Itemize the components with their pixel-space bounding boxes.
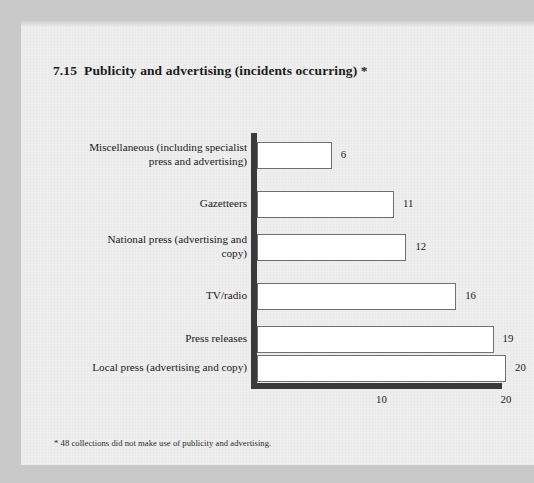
category-label-line: Local press (advertising and copy): [51, 361, 247, 375]
bar-chart: Miscellaneous (including specialistpress…: [51, 133, 529, 401]
bar-value-label: 20: [515, 361, 526, 373]
x-tick-label: 20: [501, 393, 512, 405]
category-label-line: Miscellaneous (including specialist: [51, 141, 247, 155]
category-label: TV/radio: [51, 289, 247, 303]
bar-row: 11: [257, 191, 454, 218]
bar-value-label: 19: [503, 332, 514, 344]
bar: [257, 283, 456, 310]
x-axis-line: [251, 383, 502, 389]
category-label-line: press and advertising): [51, 155, 247, 169]
bar-row: 16: [257, 283, 516, 310]
bar-value-label: 6: [341, 148, 346, 160]
bar: [257, 142, 332, 169]
bar: [257, 191, 394, 218]
figure-title-text: Publicity and advertising (incidents occ…: [84, 63, 368, 78]
figure-title: 7.15Publicity and advertising (incidents…: [53, 63, 368, 79]
category-label-line: National press (advertising and: [51, 233, 247, 247]
bar-row: 12: [257, 234, 466, 261]
figure-number: 7.15: [53, 63, 77, 78]
category-axis-labels: Miscellaneous (including specialistpress…: [51, 133, 247, 385]
x-axis-tick-labels: 1020: [251, 393, 534, 411]
category-label-line: copy): [51, 247, 247, 261]
category-label: Miscellaneous (including specialistpress…: [51, 141, 247, 168]
category-label-line: TV/radio: [51, 289, 247, 303]
bar-value-label: 11: [403, 197, 413, 209]
x-tick-label: 10: [376, 393, 387, 405]
bar-row: 19: [257, 326, 534, 353]
category-label: Gazetteers: [51, 197, 247, 211]
category-label-line: Gazetteers: [51, 197, 247, 211]
bar: [257, 234, 406, 261]
scanned-page: 7.15Publicity and advertising (incidents…: [21, 21, 534, 465]
bar: [257, 355, 506, 382]
category-label-line: Press releases: [51, 332, 247, 346]
bar-row: 20: [257, 355, 534, 382]
bar-value-label: 12: [415, 240, 426, 252]
bar-row: 6: [257, 142, 392, 169]
category-label: National press (advertising andcopy): [51, 233, 247, 260]
bar-value-label: 16: [465, 289, 476, 301]
bar-series: 61112161920: [257, 133, 527, 383]
category-label: Press releases: [51, 332, 247, 346]
bar: [257, 326, 494, 353]
figure-footnote: * 48 collections did not make use of pub…: [54, 438, 271, 448]
category-label: Local press (advertising and copy): [51, 361, 247, 375]
